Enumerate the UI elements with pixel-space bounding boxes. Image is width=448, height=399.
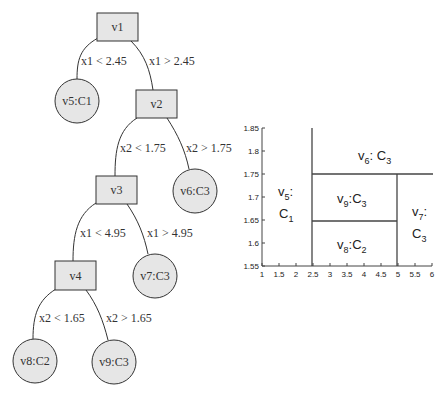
- x-tick-label: 5.5: [409, 270, 421, 279]
- figure-canvas: x1 < 2.45 x1 > 2.45 x2 < 1.75 x2 > 1.75 …: [0, 0, 448, 399]
- node-label-v3: v3: [111, 183, 123, 197]
- node-v6: v6:C3: [173, 169, 217, 213]
- edge-label-v2-v3: x2 < 1.75: [120, 141, 166, 155]
- x-tick-label: 1.5: [273, 270, 285, 279]
- region-label-c1: C1: [279, 206, 293, 224]
- x-tick-label: 6: [430, 270, 435, 279]
- y-tick-label: 1.8: [248, 147, 260, 156]
- y-tick-label: 1.85: [243, 124, 259, 133]
- x-tick-label: 4: [362, 270, 367, 279]
- partition-plot: 1.55 1.6 1.65 1.7 1.75 1.8 1.85 1 1.5 2: [243, 124, 434, 279]
- node-v5: v5:C1: [55, 79, 99, 123]
- x-tick-label: 4.5: [375, 270, 387, 279]
- region-label-v5: v5:: [278, 184, 293, 202]
- x-tick-label: 3.5: [341, 270, 353, 279]
- node-v2: v2: [136, 90, 177, 118]
- node-v7: v7:C3: [133, 254, 177, 298]
- edge-v3-v7: [127, 204, 148, 254]
- node-label-v7: v7:C3: [140, 269, 169, 283]
- region-label-v8: v8:C2: [337, 237, 367, 255]
- node-label-v9: v9:C3: [99, 355, 128, 369]
- region-label-v7: v7:: [412, 204, 427, 222]
- x-tick-label: 2: [294, 270, 299, 279]
- edge-v4-v9: [86, 290, 108, 340]
- y-tick-label: 1.55: [243, 262, 259, 271]
- region-label-v6: v6: C3: [358, 148, 391, 166]
- edge-label-v4-v9: x2 > 1.65: [106, 311, 152, 325]
- node-label-v8: v8:C2: [20, 354, 49, 368]
- node-v8: v8:C2: [13, 339, 57, 383]
- y-tick-label: 1.75: [243, 170, 259, 179]
- edge-label-v3-v4: x1 < 4.95: [80, 226, 126, 240]
- node-v4: v4: [55, 261, 96, 290]
- region-label-v9: v9:C3: [337, 191, 367, 209]
- node-v9: v9:C3: [92, 340, 136, 384]
- node-label-v5: v5:C1: [62, 94, 91, 108]
- node-v3: v3: [96, 176, 137, 204]
- x-tick-label: 1: [260, 270, 265, 279]
- edge-label-v1-v2: x1 > 2.45: [149, 54, 195, 68]
- y-tick-label: 1.7: [248, 193, 260, 202]
- node-label-v6: v6:C3: [180, 184, 209, 198]
- edge-label-v3-v7: x1 > 4.95: [147, 226, 193, 240]
- node-label-v4: v4: [70, 269, 82, 283]
- region-label-c3: C3: [412, 226, 426, 244]
- x-tick-label: 2.5: [307, 270, 319, 279]
- node-label-v1: v1: [112, 20, 124, 34]
- node-label-v2: v2: [151, 97, 163, 111]
- edge-label-v2-v6: x2 > 1.75: [186, 141, 232, 155]
- edge-label-v4-v8: x2 < 1.65: [39, 311, 85, 325]
- edge-label-v1-v5: x1 < 2.45: [81, 54, 127, 68]
- y-tick-label: 1.6: [248, 239, 260, 248]
- x-tick-label: 3: [328, 270, 333, 279]
- x-tick-labels: 1 1.5 2 2.5 3 3.5 4 4.5 5 5.5 6: [260, 270, 435, 279]
- x-tick-label: 5: [396, 270, 401, 279]
- region-labels: v5: C1 v6: C3 v9:C3 v8:C2 v7: C3: [278, 148, 427, 255]
- y-tick-label: 1.65: [243, 216, 259, 225]
- y-tick-labels: 1.55 1.6 1.65 1.7 1.75 1.8 1.85: [243, 124, 259, 271]
- node-v1: v1: [97, 13, 138, 41]
